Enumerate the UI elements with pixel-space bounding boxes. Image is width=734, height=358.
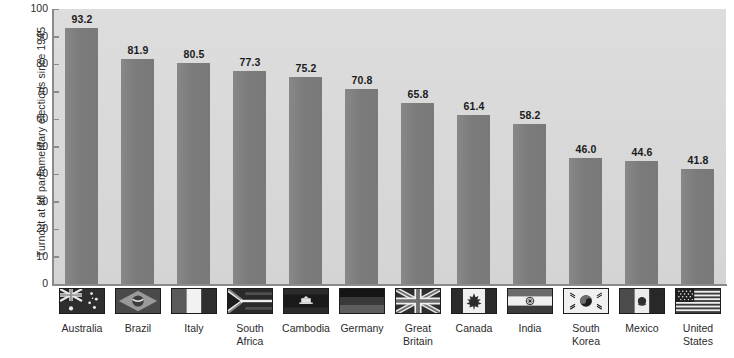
- bar-value-label: 41.8: [670, 154, 726, 166]
- bar-slot[interactable]: 93.2: [54, 9, 110, 284]
- flag-slot: [390, 288, 446, 318]
- bar[interactable]: [121, 59, 154, 284]
- bar-value-label: 77.3: [222, 56, 278, 68]
- bar-value-label: 80.5: [166, 48, 222, 60]
- flag-slot: [502, 288, 558, 318]
- x-axis-label: Italy: [166, 322, 222, 335]
- bar[interactable]: [513, 124, 546, 284]
- x-axis-label: Cambodia: [278, 322, 334, 335]
- flag-canada-icon: [451, 288, 497, 314]
- flag-slot: [446, 288, 502, 318]
- bar-value-label: 93.2: [54, 13, 110, 25]
- flag-slot: [670, 288, 726, 318]
- x-axis-label-line2: States: [670, 335, 726, 348]
- y-axis-tick-label: 60: [36, 112, 48, 124]
- x-axis-label-line1: South: [236, 322, 263, 334]
- x-axis-label: GreatBritain: [390, 322, 446, 347]
- flag-slot: [166, 288, 222, 318]
- bar[interactable]: [177, 63, 210, 284]
- bar[interactable]: [457, 115, 490, 284]
- x-axis-label-line1: Cambodia: [282, 322, 330, 334]
- x-axis-label-line1: South: [572, 322, 599, 334]
- flag-slot: [110, 288, 166, 318]
- flag-italy-icon: [171, 288, 217, 314]
- flag-slot: [278, 288, 334, 318]
- x-axis-label-line1: Great: [405, 322, 431, 334]
- bar[interactable]: [289, 77, 322, 284]
- bar-slot[interactable]: 70.8: [334, 9, 390, 284]
- flag-mexico-icon: [619, 288, 665, 314]
- bar-slot[interactable]: 81.9: [110, 9, 166, 284]
- bar-slot[interactable]: 58.2: [502, 9, 558, 284]
- bar-slot[interactable]: 44.6: [614, 9, 670, 284]
- flag-india-icon: [507, 288, 553, 314]
- bar-slot[interactable]: 77.3: [222, 9, 278, 284]
- bar-slot[interactable]: 41.8: [670, 9, 726, 284]
- x-axis-label: Canada: [446, 322, 502, 335]
- flag-slot: [54, 288, 110, 318]
- x-axis-label: SouthAfrica: [222, 322, 278, 347]
- x-axis-label: Germany: [334, 322, 390, 335]
- bar-value-label: 70.8: [334, 74, 390, 86]
- bar-slot[interactable]: 75.2: [278, 9, 334, 284]
- bar[interactable]: [569, 158, 602, 285]
- x-axis-label-line1: Canada: [456, 322, 493, 334]
- bar-slot[interactable]: 65.8: [390, 9, 446, 284]
- y-axis-tick-label: 0: [42, 277, 48, 289]
- x-axis-label: Brazil: [110, 322, 166, 335]
- bar-value-label: 81.9: [110, 44, 166, 56]
- bar[interactable]: [345, 89, 378, 284]
- bar-chart: Turnout at all parliamentary elections s…: [0, 0, 734, 358]
- y-axis-tick-label: 40: [36, 167, 48, 179]
- flag-slot: [614, 288, 670, 318]
- x-axis-label-line1: Germany: [340, 322, 383, 334]
- x-axis-label: UnitedStates: [670, 322, 726, 347]
- x-axis-label: India: [502, 322, 558, 335]
- x-axis-label-line2: Britain: [390, 335, 446, 348]
- flags-row: [54, 288, 726, 318]
- y-axis-tick-label: 70: [36, 85, 48, 97]
- bar-value-label: 58.2: [502, 109, 558, 121]
- x-axis-labels: AustraliaBrazilItalySouthAfricaCambodiaG…: [54, 322, 726, 356]
- y-axis-tick-label: 100: [30, 2, 48, 14]
- flag-slot: [558, 288, 614, 318]
- x-axis-label-line1: Italy: [184, 322, 203, 334]
- y-axis-tick-label: 20: [36, 222, 48, 234]
- bar[interactable]: [65, 28, 98, 284]
- y-axis-tick-label: 30: [36, 195, 48, 207]
- y-axis-tick-label: 10: [36, 250, 48, 262]
- y-axis-tick-label: 50: [36, 140, 48, 152]
- flag-slot: [334, 288, 390, 318]
- x-axis-line: [52, 284, 727, 286]
- x-axis-label-line1: Mexico: [625, 322, 658, 334]
- bar[interactable]: [401, 103, 434, 284]
- bars-layer: 93.281.980.577.375.270.865.861.458.246.0…: [54, 9, 726, 284]
- flag-cambodia-icon: [283, 288, 329, 314]
- x-axis-label-line1: United: [683, 322, 713, 334]
- x-axis-label-line1: Brazil: [125, 322, 151, 334]
- bar[interactable]: [233, 71, 266, 284]
- x-axis-label-line2: Korea: [558, 335, 614, 348]
- bar-value-label: 75.2: [278, 62, 334, 74]
- bar-slot[interactable]: 61.4: [446, 9, 502, 284]
- flag-australia-icon: [59, 288, 105, 314]
- bar[interactable]: [625, 161, 658, 284]
- x-axis-label: SouthKorea: [558, 322, 614, 347]
- flag-germany-icon: [339, 288, 385, 314]
- bar-value-label: 61.4: [446, 100, 502, 112]
- x-axis-label-line2: Africa: [222, 335, 278, 348]
- bar-slot[interactable]: 80.5: [166, 9, 222, 284]
- bar-value-label: 44.6: [614, 146, 670, 158]
- bar-value-label: 46.0: [558, 143, 614, 155]
- x-axis-label: Mexico: [614, 322, 670, 335]
- flag-south-korea-icon: [563, 288, 609, 314]
- flag-great-britain-icon: [395, 288, 441, 314]
- x-axis-label: Australia: [54, 322, 110, 335]
- flag-slot: [222, 288, 278, 318]
- bar[interactable]: [681, 169, 714, 284]
- flag-united-states-icon: [675, 288, 721, 314]
- bar-slot[interactable]: 46.0: [558, 9, 614, 284]
- flag-south-africa-icon: [227, 288, 273, 314]
- x-axis-label-line1: Australia: [62, 322, 103, 334]
- y-axis-tick-label: 90: [36, 30, 48, 42]
